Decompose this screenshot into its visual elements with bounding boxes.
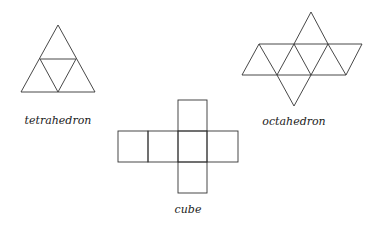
octahedron-edge	[294, 12, 311, 44]
cube-face-2	[148, 131, 178, 162]
cube-face-3	[178, 131, 207, 162]
cube-face-1	[118, 131, 148, 162]
polyhedra-nets-diagram: tetrahedron octahedron cube	[0, 0, 381, 227]
octahedron-edge	[328, 44, 346, 75]
octahedron-edge	[242, 44, 259, 75]
octahedron-net	[242, 12, 362, 106]
cube-face-top	[178, 100, 207, 131]
octahedron-edge	[294, 75, 311, 106]
tetrahedron-label: tetrahedron	[25, 114, 92, 127]
octahedron-edge	[277, 75, 294, 106]
octahedron-edge	[346, 44, 362, 75]
octahedron-edge	[259, 44, 277, 75]
octahedron-edge	[311, 12, 328, 44]
cube-label: cube	[175, 203, 202, 216]
cube-net	[118, 100, 238, 193]
tetrahedron-outer-triangle	[21, 25, 95, 92]
octahedron-edge	[311, 44, 328, 75]
tetrahedron-net	[21, 25, 95, 92]
tetrahedron-inner-triangle	[40, 59, 76, 92]
octahedron-edge	[294, 44, 311, 75]
octahedron-label: octahedron	[262, 115, 325, 128]
cube-face-4	[207, 131, 238, 162]
octahedron-edge	[277, 44, 294, 75]
cube-face-bottom	[178, 162, 207, 193]
